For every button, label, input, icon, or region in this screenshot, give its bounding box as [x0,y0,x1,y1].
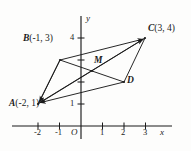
point-dot-C [144,37,146,39]
x-tick-label--2: -2 [34,128,41,137]
point-label-A-coords: (-2, 1) [15,98,39,108]
point-label-B: B(-1, 3) [23,34,53,44]
point-label-A: A(-2, 1) [9,99,39,109]
y-tick-label-4: 4 [70,33,74,42]
point-label-C: C(3, 4) [148,24,175,34]
point-label-M: M [94,56,102,66]
x-axis-label: x [160,128,164,137]
point-dot-D [123,81,125,83]
point-label-D: D [127,76,134,86]
x-tick-label--1: -1 [55,128,62,137]
y-axis-label: y [86,14,90,23]
point-label-M-name: M [94,55,102,65]
point-dot-M [91,70,93,72]
x-tick-label-1: 1 [100,128,104,137]
segment-BA-arrow [39,60,60,102]
origin-label: O [71,128,78,137]
y-tick-label-1: 1 [70,99,74,108]
x-tick-label-3: 3 [143,128,147,137]
point-label-C-coords: (3, 4) [154,23,175,33]
point-label-B-coords: (-1, 3) [29,33,53,43]
point-dot-B [59,59,61,61]
point-label-D-name: D [127,75,134,85]
x-tick-label-2: 2 [121,128,125,137]
segment-DA-arrow [40,82,125,103]
